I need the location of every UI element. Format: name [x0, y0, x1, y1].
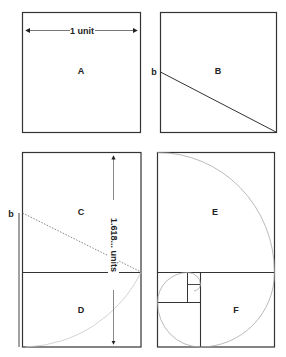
- dotted-diagonal: [23, 213, 142, 272]
- panel-a: 1 unit A: [23, 13, 141, 133]
- panel-ef: E F: [158, 153, 275, 348]
- rectangle-cd: [23, 153, 142, 348]
- diagonal-line: [161, 72, 277, 132]
- golden-rectangle: [158, 153, 275, 348]
- label-f: F: [233, 305, 239, 315]
- point-label-b: b: [151, 67, 157, 77]
- label-d: D: [78, 305, 85, 315]
- golden-ratio-diagram: 1 unit A b B 1.618... units b C D E F: [0, 0, 286, 357]
- dimension-label-1618-units: 1.618... units: [109, 218, 119, 272]
- panel-b: b B: [151, 13, 276, 133]
- panel-cd: 1.618... units b C D: [8, 153, 141, 348]
- point-label-b-lower: b: [8, 209, 14, 219]
- dimension-label-1-unit: 1 unit: [70, 26, 94, 36]
- label-a: A: [78, 66, 85, 76]
- label-e: E: [212, 207, 218, 217]
- golden-spiral: [158, 153, 275, 348]
- label-b: B: [215, 66, 222, 76]
- label-c: C: [78, 207, 85, 217]
